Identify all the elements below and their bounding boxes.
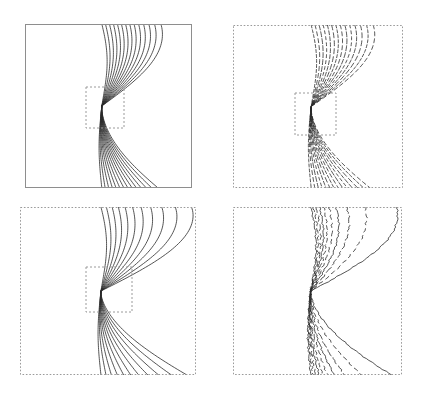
panel-bottom-right bbox=[233, 207, 402, 375]
panel-top-right-contours bbox=[308, 25, 374, 188]
contour-line bbox=[311, 25, 362, 188]
panel-bottom-left bbox=[20, 207, 196, 375]
panel-bottom-left-inset-box bbox=[86, 267, 132, 312]
figure-root bbox=[0, 0, 421, 400]
contour-line bbox=[102, 24, 163, 188]
panel-bottom-right-canvas bbox=[233, 207, 402, 375]
panel-bottom-left-contours bbox=[98, 207, 193, 375]
panel-bottom-right-frame bbox=[234, 208, 402, 375]
contour-line bbox=[101, 207, 193, 375]
contour-line bbox=[311, 25, 347, 188]
contour-line bbox=[311, 25, 375, 188]
contour-line bbox=[101, 24, 120, 188]
contour-line bbox=[101, 24, 114, 188]
contour-line bbox=[311, 25, 331, 188]
contour-line bbox=[101, 207, 177, 375]
panel-bottom-left-canvas bbox=[20, 207, 196, 375]
panel-top-left-canvas bbox=[25, 24, 192, 188]
panel-top-right-frame bbox=[234, 26, 403, 188]
panel-top-left-contours bbox=[99, 24, 162, 188]
contour-line bbox=[310, 207, 398, 375]
contour-line bbox=[98, 207, 107, 375]
contour-line bbox=[311, 25, 352, 188]
panel-top-left bbox=[25, 24, 192, 188]
panel-top-left-frame bbox=[26, 25, 192, 188]
panel-top-right-canvas bbox=[233, 25, 403, 188]
contour-line bbox=[310, 25, 323, 188]
contour-line bbox=[102, 24, 151, 188]
panel-top-right bbox=[233, 25, 403, 188]
contour-line bbox=[310, 207, 340, 375]
contour-line bbox=[101, 207, 143, 375]
contour-line bbox=[308, 25, 316, 188]
panel-bottom-right-contours bbox=[307, 207, 398, 375]
contour-line bbox=[101, 207, 153, 375]
